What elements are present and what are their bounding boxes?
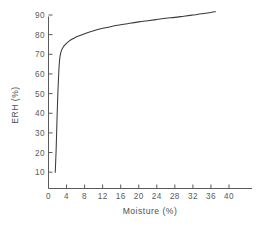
erh-moisture-line-chart: 102030405060708090 0481216202428323640 M… bbox=[0, 0, 271, 226]
x-axis-tick-label: 36 bbox=[206, 192, 216, 201]
y-axis-tick-label: 80 bbox=[35, 31, 45, 40]
x-axis-tick-label: 40 bbox=[224, 192, 234, 201]
x-axis-tick-label: 32 bbox=[188, 192, 198, 201]
x-axis-tick-label: 8 bbox=[82, 192, 87, 201]
x-axis-tick-label: 4 bbox=[64, 192, 69, 201]
x-axis-tick-label: 16 bbox=[116, 192, 126, 201]
chart-figure: 102030405060708090 0481216202428323640 M… bbox=[0, 0, 271, 226]
x-axis-title: Moisture (%) bbox=[123, 206, 178, 216]
x-axis-tick-label: 20 bbox=[134, 192, 144, 201]
x-axis-tick-label: 28 bbox=[170, 192, 180, 201]
y-axis-tick-label: 50 bbox=[35, 90, 45, 99]
y-axis-tick-label: 20 bbox=[35, 149, 45, 158]
y-axis-title: ERH (%) bbox=[10, 86, 20, 123]
y-axis-tick-labels: 102030405060708090 bbox=[35, 11, 45, 177]
y-axis-tick-label: 30 bbox=[35, 129, 45, 138]
y-axis-tick-label: 90 bbox=[35, 11, 45, 20]
y-axis-tick-label: 10 bbox=[35, 168, 45, 177]
x-axis-tick-label: 12 bbox=[98, 192, 108, 201]
x-axis-tick-label: 0 bbox=[46, 192, 51, 201]
x-axis-tick-label: 24 bbox=[152, 192, 162, 201]
y-axis-tick-label: 70 bbox=[35, 50, 45, 59]
y-axis-tick-label: 60 bbox=[35, 70, 45, 79]
y-axis-tick-label: 40 bbox=[35, 109, 45, 118]
